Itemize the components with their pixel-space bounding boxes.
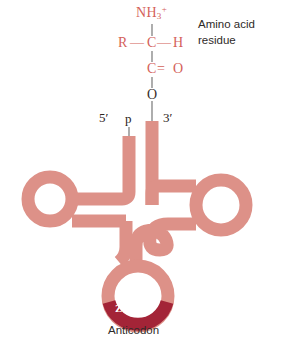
bond-dash-c-to-h: — <box>157 36 171 50</box>
bond-dash-r-to-c: — <box>130 36 144 50</box>
three-prime-label: 3′ <box>163 111 172 124</box>
amino-acid-residue-caption-line2: residue <box>198 33 255 49</box>
anticodon-bases-label: Z·Y·X <box>115 302 148 314</box>
ester-oxygen-label: O <box>147 88 157 102</box>
amino-acid-residue-caption: Amino acid residue <box>198 17 255 48</box>
amino-acid-residue-caption-line1: Amino acid <box>198 17 255 33</box>
phosphate-label: p <box>125 112 132 125</box>
d-loop <box>28 177 72 221</box>
carbonyl-carbon-label: C <box>147 62 157 76</box>
amino-group-nh: NH <box>136 5 157 20</box>
trna-figure: NH3+ R — C — H C = O O Amino acid residu… <box>0 0 283 343</box>
carbonyl-oxygen-label: O <box>173 62 183 76</box>
five-prime-label: 5′ <box>99 111 108 124</box>
alpha-carbon-label: C <box>147 36 157 50</box>
double-bond-symbol: = <box>157 62 165 76</box>
amino-group-charge: + <box>162 4 167 14</box>
anticodon-stem-left-strand <box>119 221 126 262</box>
trna-cloverleaf-diagram <box>0 0 283 343</box>
t-arm-stem <box>152 186 196 205</box>
r-group-label: R <box>118 36 128 50</box>
hydrogen-label: H <box>173 36 183 50</box>
amino-group-label: NH3+ <box>136 5 167 21</box>
anticodon-caption: Anticodon <box>108 325 159 337</box>
acceptor-stem-five-prime <box>104 136 129 199</box>
t-loop <box>196 180 246 230</box>
trna-backbone-group <box>28 121 246 326</box>
